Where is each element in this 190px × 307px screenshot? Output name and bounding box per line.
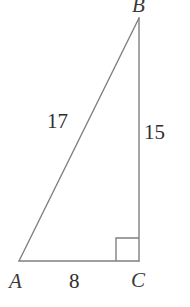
right-angle-marker-icon — [116, 238, 139, 261]
geometry-figure: B A C 17 15 8 — [0, 0, 190, 307]
vertex-label-a: A — [9, 271, 22, 292]
triangle-svg — [0, 0, 190, 307]
vertex-label-b: B — [132, 0, 145, 16]
side-length-label-ab: 17 — [47, 111, 68, 132]
side-ab-hypotenuse-line — [19, 18, 139, 261]
vertex-label-c: C — [131, 270, 145, 291]
side-length-label-ac: 8 — [69, 271, 80, 292]
side-length-label-bc: 15 — [144, 122, 165, 143]
